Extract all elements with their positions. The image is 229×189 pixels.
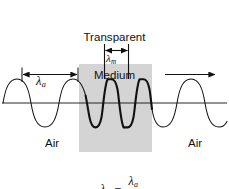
wavelength-equation: λm = λa nm bbox=[0, 162, 229, 189]
equation-numerator-symbol: λ bbox=[128, 174, 133, 188]
equation-equals-sign: = bbox=[114, 184, 121, 189]
equation-numerator: λa bbox=[125, 175, 140, 189]
wave-refraction-figure: Transparent Medium λa λm Air Air λm = λa… bbox=[0, 0, 229, 189]
lambda-medium-label: λm bbox=[106, 52, 116, 66]
equation-fraction: λa nm bbox=[124, 175, 142, 189]
equation-lhs-symbol: λ bbox=[100, 182, 105, 189]
lambda-air-subscript: a bbox=[42, 80, 46, 89]
lambda-medium-subscript: m bbox=[111, 58, 116, 66]
equation-numerator-subscript: a bbox=[134, 180, 138, 189]
figure-title-line-1: Transparent bbox=[0, 31, 229, 44]
lambda-air-symbol: λ bbox=[36, 74, 41, 88]
air-label-left: Air bbox=[32, 137, 72, 150]
air-label-right: Air bbox=[175, 137, 215, 150]
lambda-air-label: λa bbox=[36, 74, 46, 89]
figure-title-line-2: Medium bbox=[0, 69, 229, 82]
equation-lhs-subscript: m bbox=[106, 188, 112, 189]
equation-lhs: λm bbox=[100, 183, 111, 189]
